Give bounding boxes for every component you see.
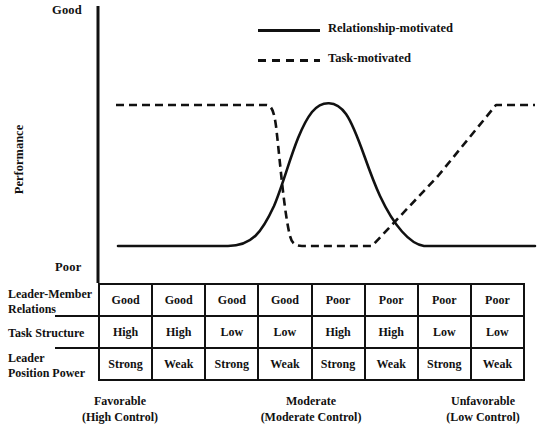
row-separator-1 xyxy=(55,315,100,317)
table-cell: Poor xyxy=(366,285,419,315)
table-cell: Low xyxy=(419,317,472,347)
legend: Relationship-motivated Task-motivated xyxy=(258,20,508,80)
caption-title: Moderate xyxy=(206,394,416,410)
table-cell: Good xyxy=(206,285,259,315)
table-cell: Poor xyxy=(419,285,472,315)
table-cell: Strong xyxy=(313,349,366,379)
table-cell: Poor xyxy=(313,285,366,315)
table-cell: Weak xyxy=(366,349,419,379)
relationship-motivated-curve xyxy=(118,103,535,246)
table-cell: Good xyxy=(153,285,206,315)
table-row: Good Good Good Good Poor Poor Poor Poor xyxy=(100,285,523,317)
row-label-line-2: Position Power xyxy=(8,366,94,381)
caption-subtitle: (Low Control) xyxy=(420,410,546,426)
caption-title: Unfavorable xyxy=(420,394,546,410)
caption-favorable: Favorable (High Control) xyxy=(55,394,185,425)
table-cell: Poor xyxy=(472,285,523,315)
table-cell: Weak xyxy=(259,349,312,379)
table-cell: Weak xyxy=(472,349,523,379)
row-label-line-1: Leader-Member xyxy=(8,287,94,302)
row-separator-2 xyxy=(55,347,100,349)
legend-item-relationship-motivated: Relationship-motivated xyxy=(258,20,508,50)
fiedler-contingency-model-figure: Good Poor Performance Relationship-motiv… xyxy=(0,0,546,433)
row-label-line-1: Leader xyxy=(8,351,94,366)
table-cell: High xyxy=(313,317,366,347)
table-cell: Strong xyxy=(100,349,153,379)
table-cell: Good xyxy=(259,285,312,315)
table-cell: Good xyxy=(100,285,153,315)
y-axis-title: Performance xyxy=(12,115,27,205)
table-cell: High xyxy=(153,317,206,347)
table-cell: Strong xyxy=(206,349,259,379)
caption-moderate: Moderate (Moderate Control) xyxy=(206,394,416,425)
table-cell: Low xyxy=(472,317,523,347)
dashed-line-swatch xyxy=(258,59,320,62)
solid-line-swatch xyxy=(258,29,320,32)
caption-unfavorable: Unfavorable (Low Control) xyxy=(420,394,546,425)
caption-subtitle: (Moderate Control) xyxy=(206,410,416,426)
y-axis-top-label: Good xyxy=(52,3,82,18)
table-cell: Weak xyxy=(153,349,206,379)
row-label-leader-position-power: Leader Position Power xyxy=(8,351,94,380)
row-label-task-structure: Task Structure xyxy=(8,326,94,341)
legend-item-task-motivated: Task-motivated xyxy=(258,50,508,80)
y-axis-bottom-label: Poor xyxy=(55,260,81,275)
table-row: High High Low Low High High Low Low xyxy=(100,317,523,349)
table-cell: High xyxy=(100,317,153,347)
table-row: Strong Weak Strong Weak Strong Weak Stro… xyxy=(100,349,523,379)
legend-label-task-motivated: Task-motivated xyxy=(328,51,411,66)
legend-label-relationship-motivated: Relationship-motivated xyxy=(328,21,453,36)
situational-favorability-table: Good Good Good Good Poor Poor Poor Poor … xyxy=(98,283,525,381)
table-cell: Low xyxy=(206,317,259,347)
caption-subtitle: (High Control) xyxy=(55,410,185,426)
row-label-leader-member-relations: Leader-Member Relations xyxy=(8,287,94,316)
table-cell: Strong xyxy=(419,349,472,379)
table-cell: Low xyxy=(259,317,312,347)
row-label-line-1: Task Structure xyxy=(8,326,94,341)
table-cell: High xyxy=(366,317,419,347)
caption-title: Favorable xyxy=(55,394,185,410)
task-motivated-curve xyxy=(116,105,535,246)
